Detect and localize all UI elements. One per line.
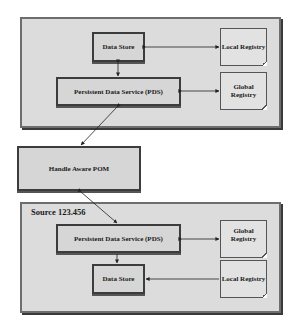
pom-bottom-pds-arrow <box>81 192 117 223</box>
top-pds-pom-arrow <box>81 107 117 145</box>
connector-arrows <box>0 0 295 326</box>
